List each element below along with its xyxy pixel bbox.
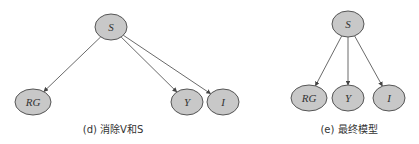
node-y: Y [332, 85, 364, 111]
caption-e: (e) 最终模型 [320, 121, 377, 136]
edge-s-to-rg [315, 36, 341, 86]
node-rg: RG [15, 89, 51, 115]
edge-s-to-i [355, 36, 383, 86]
node-i: I [207, 89, 239, 115]
node-label: S [345, 18, 351, 30]
edge-s-to-y [121, 37, 177, 92]
edges-layer [44, 35, 383, 93]
node-s: S [332, 11, 364, 37]
edge-s-to-i [123, 35, 210, 93]
node-label: S [108, 21, 114, 33]
node-rg: RG [291, 85, 327, 111]
node-label: RG [301, 92, 317, 104]
caption-d: (d) 消除V和S [83, 121, 144, 136]
node-y: Y [171, 89, 203, 115]
node-label: RG [25, 96, 41, 108]
node-i: I [373, 85, 405, 111]
node-s: S [95, 14, 127, 40]
edge-s-to-rg [44, 37, 101, 92]
